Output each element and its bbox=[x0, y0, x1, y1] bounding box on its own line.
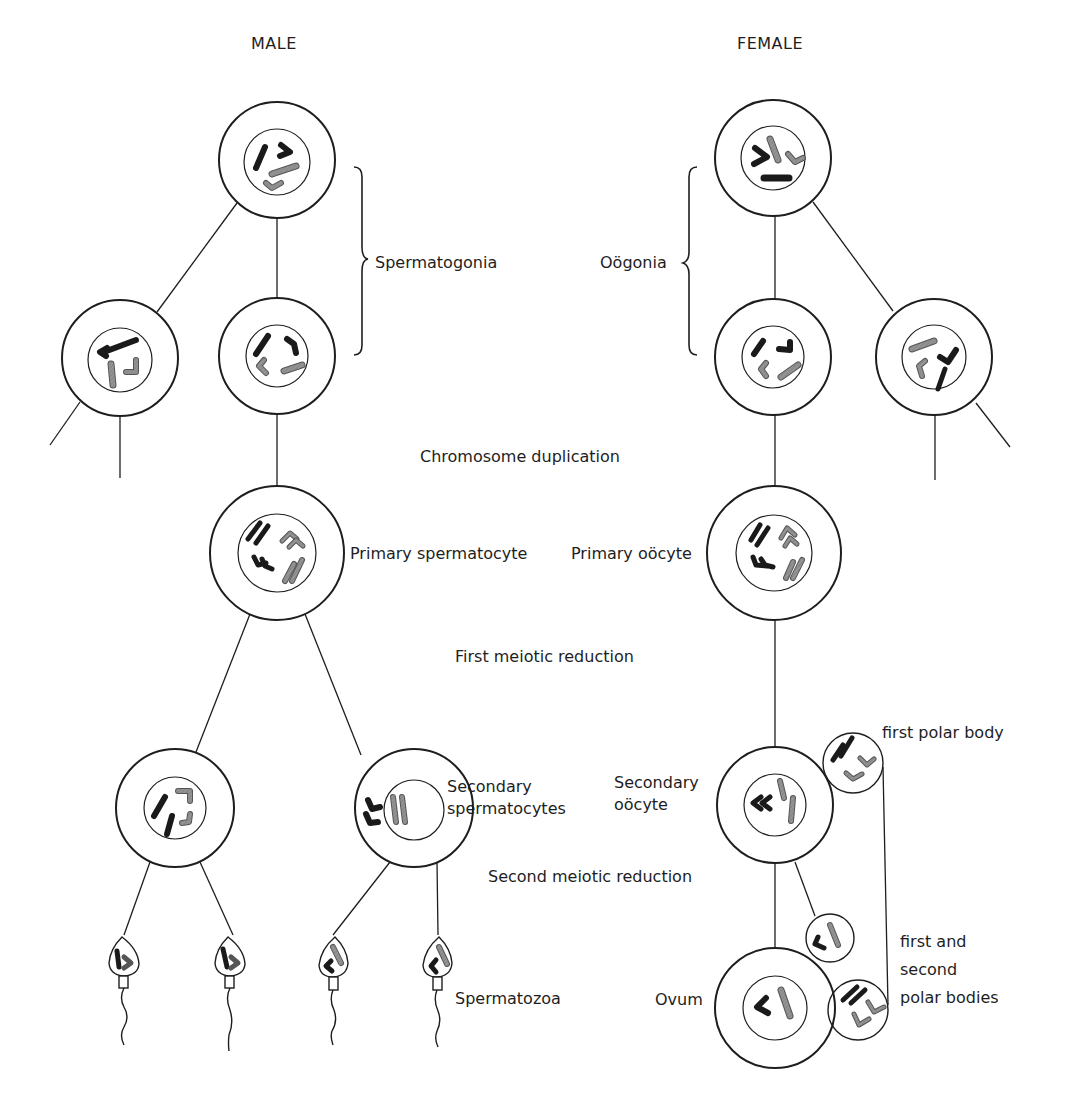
female-header: FEMALE bbox=[737, 33, 803, 55]
spermatozoon-4 bbox=[423, 937, 452, 1047]
male-spermatogonium-right bbox=[219, 298, 335, 414]
first-meiotic-reduction-label: First meiotic reduction bbox=[455, 646, 634, 668]
spermatozoa-label: Spermatozoa bbox=[455, 988, 561, 1010]
female-oogonium-top bbox=[715, 100, 831, 216]
male-lineage-lines bbox=[50, 203, 438, 935]
chromosomes bbox=[100, 139, 956, 1025]
female-oogonium-right bbox=[876, 299, 992, 415]
spermatozoon-2 bbox=[215, 937, 245, 1051]
primary-oocyte-label: Primary oöcyte bbox=[571, 543, 692, 565]
second-polar-body-cell bbox=[806, 914, 854, 962]
male-header: MALE bbox=[251, 33, 297, 55]
primary-spermatocyte-cell bbox=[210, 486, 344, 620]
gametogenesis-diagram: MALE FEMALE Spermatogonia Oögonia Chromo… bbox=[0, 0, 1072, 1109]
spermatozoa-group bbox=[109, 937, 452, 1051]
spermatogonia-brace bbox=[354, 167, 368, 355]
oogonia-label: Oögonia bbox=[600, 252, 667, 274]
secondary-spermatocyte-left bbox=[116, 749, 234, 867]
second-meiotic-reduction-label: Second meiotic reduction bbox=[488, 866, 692, 888]
first-polar-body-cell bbox=[823, 733, 883, 793]
primary-spermatocyte-label: Primary spermatocyte bbox=[350, 543, 527, 565]
spermatogonia-label: Spermatogonia bbox=[375, 252, 497, 274]
ovum-label: Ovum bbox=[655, 989, 703, 1011]
primary-oocyte-cell bbox=[707, 486, 841, 620]
spermatozoon-3 bbox=[319, 937, 348, 1045]
first-polar-body-label: first polar body bbox=[882, 722, 1004, 744]
ovum-cell bbox=[715, 948, 835, 1068]
secondary-oocyte-cell bbox=[717, 747, 833, 863]
secondary-oocyte-label: Secondary oöcyte bbox=[614, 772, 699, 816]
chromosome-duplication-label: Chromosome duplication bbox=[420, 446, 620, 468]
first-and-second-polar-bodies-label: first and second polar bodies bbox=[900, 928, 999, 1012]
secondary-spermatocytes-label: Secondary spermatocytes bbox=[447, 776, 566, 820]
female-lineage-lines bbox=[775, 202, 1010, 1005]
female-oogonium-left bbox=[715, 299, 831, 415]
male-spermatogonium-left bbox=[62, 300, 178, 416]
oogonia-brace bbox=[683, 167, 697, 355]
male-spermatogonium-top bbox=[219, 102, 335, 218]
spermatozoon-1 bbox=[109, 937, 139, 1045]
